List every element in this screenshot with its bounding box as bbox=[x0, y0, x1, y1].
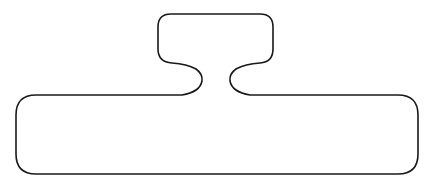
diagram-canvas bbox=[0, 0, 434, 185]
connected-shape-outline bbox=[16, 14, 418, 174]
shape-svg bbox=[0, 0, 434, 185]
